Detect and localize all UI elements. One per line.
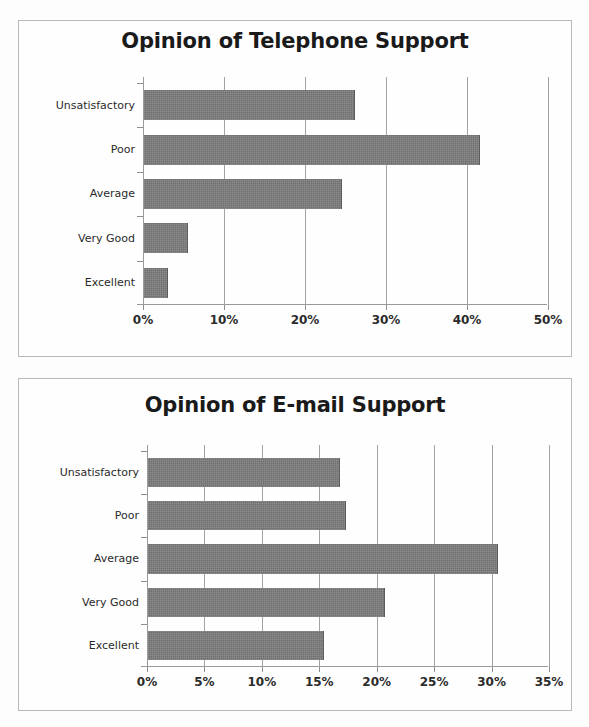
chart-telephone-support: Opinion of Telephone Support 0%10%20%30%…	[18, 20, 572, 357]
x-axis-line-telephone	[137, 304, 547, 305]
x-axis-label-email: 25%	[420, 676, 449, 688]
x-axis-label-email: 5%	[194, 676, 214, 688]
x-axis-label-email: 15%	[305, 676, 334, 688]
y-axis-tick-email	[141, 537, 147, 538]
y-axis-label-telephone-excellent: Excellent	[85, 277, 135, 288]
y-axis-tick-email	[141, 494, 147, 495]
y-axis-tick-telephone	[137, 127, 143, 128]
page-root: Opinion of Telephone Support 0%10%20%30%…	[0, 0, 589, 727]
bar-row: Unsatisfactory	[148, 458, 550, 487]
x-axis-tick-email	[319, 667, 320, 672]
x-axis-label-email: 30%	[477, 676, 506, 688]
y-axis-label-telephone-average: Average	[90, 188, 135, 199]
x-axis-label-telephone: 50%	[534, 314, 563, 326]
x-axis-tick-email	[147, 667, 148, 672]
y-axis-tick-telephone	[137, 83, 143, 84]
plot-area-telephone: 0%10%20%30%40%50%ExcellentVery GoodAvera…	[143, 83, 548, 305]
x-axis-tick-email	[262, 667, 263, 672]
bar-telephone-average[interactable]	[144, 179, 342, 209]
x-axis-tick-email	[204, 667, 205, 672]
chart-email-support: Opinion of E-mail Support 0%5%10%15%20%2…	[18, 378, 572, 711]
x-axis-line-email	[141, 666, 548, 667]
x-axis-tick-email	[549, 667, 550, 672]
x-axis-label-email: 0%	[137, 676, 157, 688]
y-axis-tick-telephone	[137, 216, 143, 217]
bar-telephone-poor[interactable]	[144, 135, 480, 165]
x-axis-label-telephone: 10%	[210, 314, 239, 326]
y-axis-tick-email	[141, 581, 147, 582]
x-axis-tick-email	[377, 667, 378, 672]
x-axis-label-telephone: 30%	[372, 314, 401, 326]
x-axis-label-email: 20%	[362, 676, 391, 688]
bar-row: Very Good	[144, 223, 549, 253]
x-axis-label-telephone: 20%	[291, 314, 320, 326]
x-axis-tick-telephone	[386, 305, 387, 310]
bar-telephone-unsatisfactory[interactable]	[144, 90, 355, 120]
x-axis-tick-telephone	[224, 305, 225, 310]
x-axis-label-telephone: 0%	[133, 314, 153, 326]
bar-email-average[interactable]	[148, 544, 498, 573]
y-axis-tick-email	[141, 624, 147, 625]
bar-email-very-good[interactable]	[148, 588, 385, 617]
bar-email-unsatisfactory[interactable]	[148, 458, 340, 487]
bar-row: Unsatisfactory	[144, 90, 549, 120]
x-axis-tick-telephone	[548, 305, 549, 310]
x-axis-label-email: 35%	[535, 676, 564, 688]
x-axis-label-email: 10%	[247, 676, 276, 688]
y-axis-label-email-excellent: Excellent	[89, 640, 139, 651]
x-axis-tick-telephone	[467, 305, 468, 310]
y-axis-label-email-unsatisfactory: Unsatisfactory	[60, 467, 139, 478]
bar-row: Excellent	[144, 268, 549, 298]
y-axis-label-email-poor: Poor	[115, 510, 139, 521]
y-axis-tick-telephone	[137, 261, 143, 262]
y-axis-label-telephone-poor: Poor	[111, 144, 135, 155]
y-axis-label-email-very-good: Very Good	[82, 597, 139, 608]
bar-row: Poor	[148, 501, 550, 530]
x-axis-tick-telephone	[143, 305, 144, 310]
bar-telephone-excellent[interactable]	[144, 268, 168, 298]
chart-title-telephone: Opinion of Telephone Support	[19, 29, 571, 53]
y-axis-tick-email	[141, 451, 147, 452]
bar-telephone-very-good[interactable]	[144, 223, 188, 253]
bar-row: Average	[148, 544, 550, 573]
y-axis-label-telephone-unsatisfactory: Unsatisfactory	[56, 100, 135, 111]
bar-email-poor[interactable]	[148, 501, 346, 530]
bar-row: Very Good	[148, 588, 550, 617]
bar-row: Excellent	[148, 631, 550, 660]
x-axis-tick-telephone	[305, 305, 306, 310]
x-axis-label-telephone: 40%	[453, 314, 482, 326]
bar-email-excellent[interactable]	[148, 631, 324, 660]
y-axis-tick-telephone	[137, 172, 143, 173]
plot-area-email: 0%5%10%15%20%25%30%35%ExcellentVery Good…	[147, 451, 549, 667]
bar-row: Poor	[144, 135, 549, 165]
chart-title-email: Opinion of E-mail Support	[19, 393, 571, 417]
x-axis-tick-email	[492, 667, 493, 672]
y-axis-label-email-average: Average	[94, 553, 139, 564]
y-axis-label-telephone-very-good: Very Good	[78, 233, 135, 244]
x-axis-tick-email	[434, 667, 435, 672]
bar-row: Average	[144, 179, 549, 209]
